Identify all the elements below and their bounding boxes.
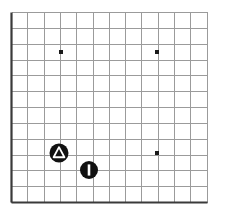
square-dot-marker[interactable] <box>59 50 63 54</box>
series-triangle-in-circle-marker <box>50 144 69 163</box>
vertical-bar-icon <box>88 164 91 175</box>
series-bar-in-circle-marker <box>80 161 98 179</box>
data-point[interactable] <box>50 144 69 163</box>
data-point[interactable] <box>59 50 63 54</box>
square-dot-marker[interactable] <box>155 151 159 155</box>
data-point[interactable] <box>155 151 159 155</box>
square-dot-marker[interactable] <box>155 50 159 54</box>
data-point[interactable] <box>80 161 98 179</box>
scatter-plot <box>0 0 225 217</box>
data-point[interactable] <box>155 50 159 54</box>
chart-canvas <box>0 0 225 217</box>
